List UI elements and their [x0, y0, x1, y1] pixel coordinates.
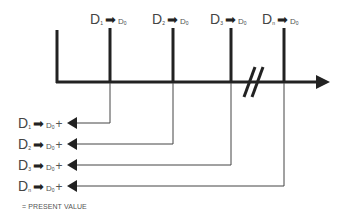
- axis-arrowhead-icon: [316, 75, 330, 89]
- pv-term-2: D2➡D0+: [18, 137, 62, 155]
- period-label-2: D2➡D0: [152, 12, 188, 30]
- period-label-1: D1➡D0: [90, 12, 126, 30]
- present-value-caption: = PRESENT VALUE: [22, 203, 87, 210]
- pv-term-3: D3➡D0+: [18, 158, 62, 176]
- pv-term-n: Dn➡D0+: [18, 179, 62, 197]
- pv-term-1: D1➡D0+: [18, 116, 62, 134]
- period-label-n: Dn➡D0: [262, 12, 298, 30]
- period-label-3: D3➡D0: [210, 12, 246, 30]
